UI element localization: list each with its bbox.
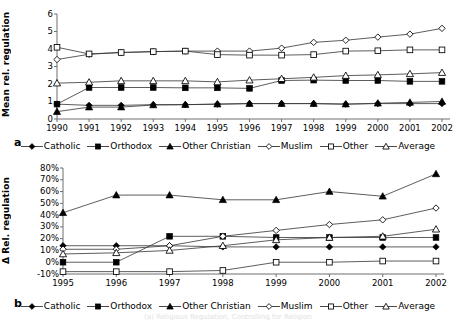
legend-item-catholic: Catholic xyxy=(21,301,81,312)
data-point-marker xyxy=(59,209,66,215)
series-other-christian xyxy=(59,170,439,215)
data-point-marker xyxy=(54,101,60,107)
data-point-marker xyxy=(86,85,92,91)
data-point-marker xyxy=(328,303,333,308)
data-point-marker xyxy=(433,235,439,241)
legend-b: CatholicOrthodoxOther ChristianMuslimOth… xyxy=(0,298,456,314)
data-point-marker xyxy=(247,52,253,58)
data-point-marker xyxy=(439,79,445,85)
legend-item-average: Average xyxy=(375,301,435,312)
data-point-marker xyxy=(113,259,119,265)
x-tick-label: 2002 xyxy=(424,123,456,133)
data-point-marker xyxy=(167,269,173,275)
x-tick-label: 1991 xyxy=(71,123,107,133)
legend-marker-open-triangle-icon xyxy=(375,141,397,152)
data-point-marker xyxy=(278,45,284,51)
data-point-marker xyxy=(433,244,439,250)
x-tick-label: 1997 xyxy=(264,123,300,133)
legend-item-orthodox: Orthodox xyxy=(87,141,152,152)
x-tick-label: 1998 xyxy=(205,278,241,288)
data-point-marker xyxy=(29,143,35,149)
data-point-marker xyxy=(407,79,413,85)
data-point-marker xyxy=(54,56,60,62)
data-point-marker xyxy=(220,268,226,274)
x-tick-label: 2001 xyxy=(365,278,401,288)
data-point-marker xyxy=(215,85,221,91)
legend-item-average: Average xyxy=(375,141,435,152)
legend-marker-filled-diamond-icon xyxy=(21,141,43,152)
legend-label: Other Christian xyxy=(182,141,251,151)
data-point-marker xyxy=(54,44,60,50)
data-point-marker xyxy=(439,47,445,53)
legend-marker-filled-square-icon xyxy=(87,141,109,152)
legend-marker-filled-triangle-icon xyxy=(159,301,181,312)
data-point-marker xyxy=(343,48,349,54)
data-point-marker xyxy=(375,34,381,40)
x-tick-label: 1998 xyxy=(296,123,332,133)
data-point-marker xyxy=(167,233,173,239)
legend-label: Other xyxy=(343,141,369,151)
legend-label: Other Christian xyxy=(182,301,251,311)
legend-a: CatholicOrthodoxOther ChristianMuslimOth… xyxy=(0,138,456,154)
data-point-marker xyxy=(273,227,279,233)
series-line xyxy=(63,174,436,213)
data-point-marker xyxy=(380,258,386,264)
x-tick-label: 1990 xyxy=(39,123,75,133)
legend-item-catholic: Catholic xyxy=(21,141,81,152)
x-tick-label: 1995 xyxy=(45,278,81,288)
series-other-christian xyxy=(53,98,445,115)
x-tick-label: 1997 xyxy=(152,278,188,288)
legend-item-other: Other xyxy=(320,141,369,152)
data-point-marker xyxy=(375,78,381,84)
data-point-marker xyxy=(327,259,333,265)
x-tick-label: 1992 xyxy=(103,123,139,133)
legend-item-other-christian: Other Christian xyxy=(159,301,251,312)
data-point-marker xyxy=(215,52,221,58)
data-point-marker xyxy=(438,98,445,104)
data-point-marker xyxy=(150,49,156,55)
legend-marker-open-square-icon xyxy=(320,141,342,152)
data-point-marker xyxy=(380,244,386,250)
legend-marker-open-diamond-icon xyxy=(258,141,280,152)
chart-panel-a: Mean rel. regulation 0123456 19901991199… xyxy=(0,0,456,156)
x-tick-label: 2001 xyxy=(392,123,428,133)
data-point-marker xyxy=(273,259,279,265)
series-average xyxy=(59,226,439,257)
legend-item-other-christian: Other Christian xyxy=(159,141,251,152)
x-tick-label: 2002 xyxy=(418,278,454,288)
data-point-marker xyxy=(247,86,253,92)
legend-item-other: Other xyxy=(320,301,369,312)
x-tick-label: 1995 xyxy=(199,123,235,133)
data-point-marker xyxy=(326,244,332,250)
legend-marker-open-triangle-icon xyxy=(375,301,397,312)
data-point-marker xyxy=(183,85,189,91)
data-point-marker xyxy=(343,37,349,43)
legend-label: Average xyxy=(398,301,435,311)
legend-label: Orthodox xyxy=(110,301,152,311)
x-tick-label: 1994 xyxy=(167,123,203,133)
x-tick-label: 2000 xyxy=(360,123,396,133)
x-tick-label: 1993 xyxy=(135,123,171,133)
legend-item-muslim: Muslim xyxy=(258,301,313,312)
figure-container: Mean rel. regulation 0123456 19901991199… xyxy=(0,0,456,320)
x-tick-label: 1996 xyxy=(232,123,268,133)
data-point-marker xyxy=(113,269,119,275)
x-tick-label: 1996 xyxy=(98,278,134,288)
data-point-marker xyxy=(438,69,445,75)
data-point-marker xyxy=(150,85,156,91)
data-point-marker xyxy=(432,170,439,176)
data-point-marker xyxy=(433,258,439,264)
data-point-marker xyxy=(60,269,66,275)
y-axis-title-b: Δ Rel. regulation xyxy=(1,163,15,278)
x-tick-label: 1999 xyxy=(328,123,364,133)
data-point-marker xyxy=(433,205,439,211)
data-point-marker xyxy=(311,52,317,58)
data-point-marker xyxy=(60,259,66,265)
legend-marker-filled-diamond-icon xyxy=(21,301,43,312)
data-point-marker xyxy=(266,143,272,149)
legend-label: Other xyxy=(343,301,369,311)
data-point-marker xyxy=(118,50,124,56)
data-point-marker xyxy=(96,303,101,308)
legend-label: Catholic xyxy=(44,301,81,311)
x-tick-label: 1999 xyxy=(258,278,294,288)
